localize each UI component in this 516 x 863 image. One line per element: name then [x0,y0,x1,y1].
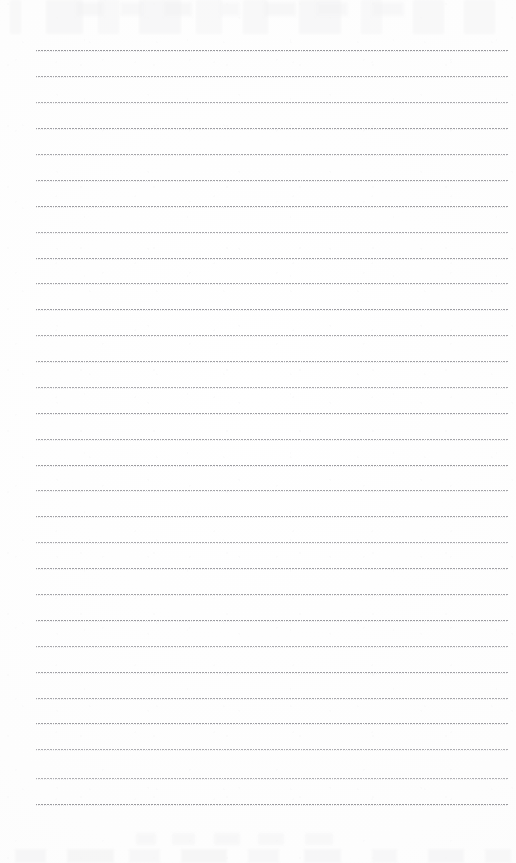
rule-line [36,672,508,673]
rule-line [36,387,508,388]
bottom-edge-ghosting-artifact-secondary [120,833,380,845]
rule-line [36,804,508,805]
rule-line [36,620,508,621]
rule-line [36,749,508,750]
rule-line [36,309,508,310]
notebook-page [0,0,516,863]
rule-line [36,154,508,155]
rule-line [36,50,508,51]
rule-line [36,516,508,517]
rule-line [36,568,508,569]
rule-line [36,439,508,440]
rule-line [36,180,508,181]
ruled-lines-layer [0,0,516,863]
rule-line [36,698,508,699]
rule-line [36,76,508,77]
rule-line [36,102,508,103]
rule-line [36,778,508,779]
rule-line [36,490,508,491]
rule-line [36,283,508,284]
rule-line [36,258,508,259]
rule-line [36,646,508,647]
rule-line [36,594,508,595]
rule-line [36,232,508,233]
rule-line [36,206,508,207]
rule-line [36,723,508,724]
rule-line [36,361,508,362]
rule-line [36,413,508,414]
rule-line [36,465,508,466]
rule-line [36,335,508,336]
rule-line [36,128,508,129]
rule-line [36,542,508,543]
